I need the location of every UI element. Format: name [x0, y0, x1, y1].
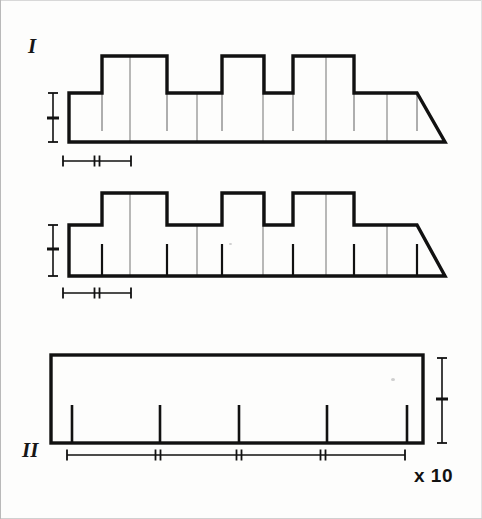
profile-outline [69, 193, 445, 276]
profile-3-group [51, 355, 448, 461]
diagram-canvas: I II x 10 [0, 0, 482, 519]
profile-1-group [47, 56, 445, 167]
profile-outline [69, 56, 445, 142]
profile-diagram-1 [1, 0, 482, 185]
profile-diagram-3 [1, 330, 482, 480]
profile-diagram-2 [1, 175, 482, 320]
paper-speck [229, 243, 232, 245]
paper-speck [391, 378, 395, 381]
profile-outline [51, 355, 423, 443]
profile-2-group [47, 193, 445, 299]
